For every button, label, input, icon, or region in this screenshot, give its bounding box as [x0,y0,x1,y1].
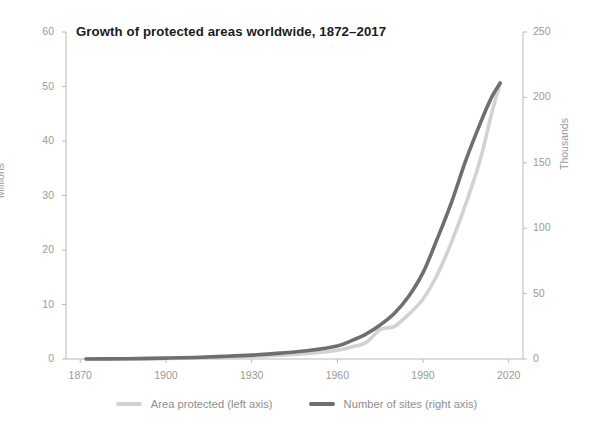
x-tick-4: 1990 [400,369,446,381]
y-tick-left-4: 40 [14,134,54,146]
y-tick-left-5: 50 [14,80,54,92]
y-tick-right-0: 0 [533,352,573,364]
y-tick-right-5: 250 [533,25,573,37]
chart-legend: Area protected (left axis)Number of site… [0,398,593,410]
legend-label-1: Number of sites (right axis) [344,398,478,410]
y-tick-left-1: 10 [14,298,54,310]
plot-area [0,0,593,430]
y-axis-title-left: Millions [0,163,6,198]
y-tick-left-0: 0 [14,352,54,364]
x-tick-3: 1960 [314,369,360,381]
x-tick-2: 1930 [229,369,275,381]
legend-item-0[interactable]: Area protected (left axis) [116,398,273,410]
legend-label-0: Area protected (left axis) [151,398,273,410]
y-tick-left-3: 30 [14,189,54,201]
y-tick-right-4: 200 [533,90,573,102]
series-line-0 [86,84,500,359]
y-tick-right-3: 150 [533,156,573,168]
series-line-1 [86,83,500,359]
legend-swatch-icon-1 [309,402,335,406]
y-tick-right-1: 50 [533,287,573,299]
y-tick-left-2: 20 [14,243,54,255]
chart-title: Growth of protected areas worldwide, 187… [76,24,386,39]
chart-figure: Growth of protected areas worldwide, 187… [0,0,593,430]
x-tick-1: 1900 [143,369,189,381]
legend-item-1[interactable]: Number of sites (right axis) [309,398,478,410]
y-tick-left-6: 60 [14,25,54,37]
x-tick-5: 2020 [486,369,532,381]
legend-swatch-icon-0 [116,402,142,406]
y-tick-right-2: 100 [533,221,573,233]
series-lines [86,83,500,359]
x-tick-0: 1870 [57,369,103,381]
tick-marks [62,32,527,363]
